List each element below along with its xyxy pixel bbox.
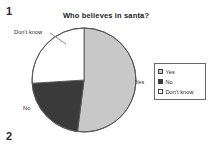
legend-item-no: No bbox=[158, 77, 202, 86]
legend-label-dont-know: Don't know bbox=[166, 89, 194, 95]
chart-title: Who believes in santa? bbox=[38, 11, 174, 20]
pie-label-yes: Yes bbox=[135, 79, 144, 85]
legend-swatch-no-icon bbox=[158, 79, 163, 84]
legend-swatch-dont-know-icon bbox=[158, 89, 163, 94]
legend-swatch-yes-icon bbox=[158, 69, 163, 74]
page-number-bottom: 2 bbox=[6, 131, 12, 142]
pie-slice-dont-know bbox=[32, 28, 84, 83]
pie-slice-yes bbox=[77, 28, 136, 132]
pie-chart bbox=[30, 26, 140, 134]
pie-chart-svg bbox=[30, 26, 140, 134]
chart-legend: Yes No Don't know bbox=[154, 63, 206, 100]
legend-label-yes: Yes bbox=[166, 69, 175, 75]
pie-slice-no bbox=[32, 80, 84, 132]
legend-item-dont-know: Don't know bbox=[158, 87, 202, 96]
pie-label-dont-know: Don't know bbox=[14, 29, 43, 35]
scanned-page: 1 Who believes in santa? Don't know No Y… bbox=[0, 0, 212, 150]
legend-label-no: No bbox=[166, 79, 173, 85]
pie-chart-figure: Who believes in santa? Don't know No Yes bbox=[0, 0, 212, 150]
legend-item-yes: Yes bbox=[158, 67, 202, 76]
pie-label-no: No bbox=[23, 105, 30, 111]
